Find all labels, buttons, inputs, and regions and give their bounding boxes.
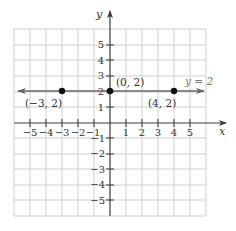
y-axis-label: y bbox=[95, 8, 103, 21]
point-0-2 bbox=[107, 88, 113, 94]
svg-text:−4: −4 bbox=[39, 127, 54, 138]
svg-text:−1: −1 bbox=[90, 133, 105, 144]
svg-text:1: 1 bbox=[123, 127, 129, 138]
svg-text:2: 2 bbox=[139, 127, 145, 138]
svg-text:−2: −2 bbox=[90, 148, 105, 159]
svg-text:3: 3 bbox=[98, 70, 104, 81]
point-4-2 bbox=[171, 88, 177, 94]
svg-text:4: 4 bbox=[171, 127, 177, 138]
svg-text:−5: −5 bbox=[23, 127, 38, 138]
point-label-neg3-2: (−3, 2) bbox=[25, 97, 62, 109]
svg-text:5: 5 bbox=[187, 127, 193, 138]
coordinate-plane: −5 −4 −3 −2 −1 1 2 3 4 5 5 4 3 2 1 −1 −2… bbox=[0, 0, 236, 231]
line-equation-label: y = 2 bbox=[184, 75, 213, 87]
svg-text:−3: −3 bbox=[90, 164, 105, 175]
svg-text:−3: −3 bbox=[55, 127, 70, 138]
svg-text:−5: −5 bbox=[90, 195, 105, 206]
svg-text:4: 4 bbox=[98, 55, 104, 66]
x-tick-labels: −5 −4 −3 −2 −1 1 2 3 4 5 bbox=[23, 127, 194, 138]
svg-text:3: 3 bbox=[155, 127, 161, 138]
svg-text:1: 1 bbox=[98, 102, 104, 113]
point-label-4-2: (4, 2) bbox=[148, 97, 176, 109]
point-neg3-2 bbox=[59, 88, 65, 94]
svg-text:5: 5 bbox=[98, 39, 104, 50]
svg-text:−4: −4 bbox=[90, 179, 105, 190]
svg-text:−2: −2 bbox=[71, 127, 86, 138]
x-axis-label: x bbox=[219, 125, 226, 138]
point-label-0-2: (0, 2) bbox=[116, 76, 144, 88]
